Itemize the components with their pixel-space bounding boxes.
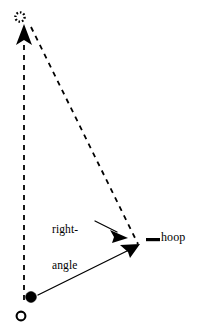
hoop-label: hoop (161, 231, 185, 244)
dotted-circle-icon (15, 12, 24, 21)
diagonal-dashed-vector-shaft (31, 27, 138, 244)
right-angle-label-line2: angle (52, 259, 78, 271)
right-angle-label-line1: right- (52, 223, 78, 235)
up-arrowhead (16, 24, 32, 45)
diagram-canvas (0, 0, 204, 331)
hoop-bar-icon (146, 238, 160, 241)
figure-container: right- angle hoop (0, 0, 204, 331)
hollow-circle-icon (17, 312, 26, 321)
right-angle-label: right- angle (52, 199, 78, 296)
resultant-arrowhead (120, 244, 140, 258)
right-angle-pointer-shaft (95, 221, 117, 232)
right-angle-pointer-arrowhead (110, 230, 128, 243)
filled-dot-icon (26, 292, 37, 303)
